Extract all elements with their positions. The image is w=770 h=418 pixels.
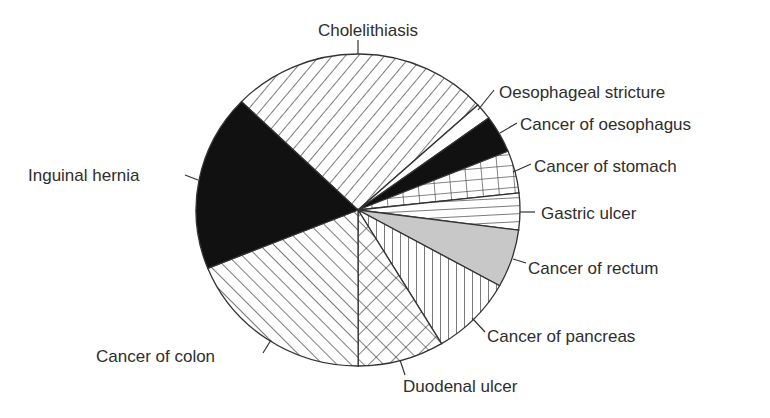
- slice-label: Duodenal ulcer: [403, 377, 518, 396]
- slice-label: Cancer of colon: [96, 347, 215, 366]
- slice-label: Inguinal hernia: [28, 166, 140, 185]
- slice-label: Gastric ulcer: [541, 204, 637, 223]
- pie-chart: CholelithiasisOesophageal strictureCance…: [0, 0, 770, 418]
- slice-label: Cancer of rectum: [528, 259, 658, 278]
- leader-line: [472, 318, 485, 332]
- leader-line: [513, 164, 531, 172]
- slice-label: Cholelithiasis: [318, 21, 418, 40]
- leader-line: [263, 340, 271, 353]
- slice-label: Cancer of stomach: [534, 157, 677, 176]
- leader-line: [400, 360, 405, 375]
- leader-line: [513, 259, 526, 263]
- pie-slices: [196, 54, 520, 366]
- slice-label: Cancer of pancreas: [487, 327, 635, 346]
- slice-label: Oesophageal stricture: [499, 83, 665, 102]
- leader-line: [185, 175, 198, 180]
- leader-line: [478, 90, 494, 110]
- leader-line: [500, 123, 517, 133]
- slice-label: Cancer of oesophagus: [520, 115, 691, 134]
